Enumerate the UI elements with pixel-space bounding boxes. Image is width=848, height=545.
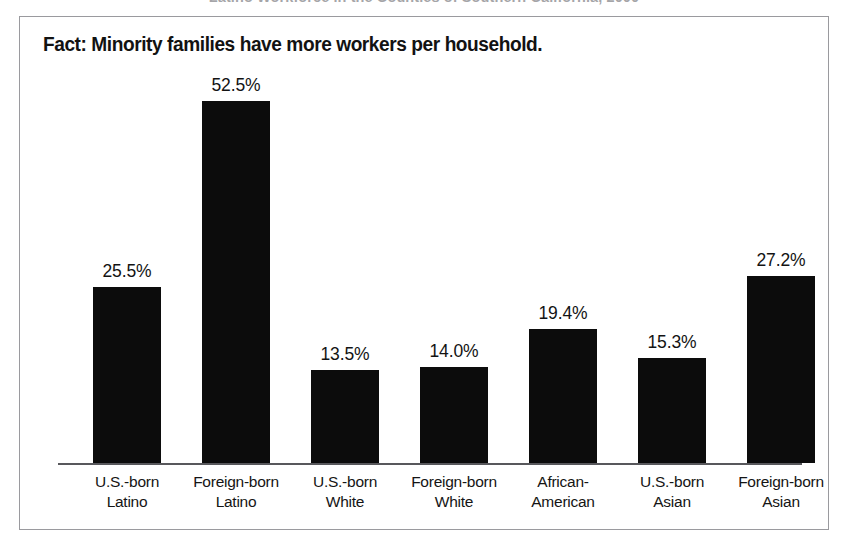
category-label-line2: Latino xyxy=(173,492,299,512)
bar-group: 15.3% xyxy=(638,318,706,463)
bar-7 xyxy=(747,276,815,463)
category-label-2: Foreign-bornLatino xyxy=(173,472,299,512)
category-label-line1: African- xyxy=(537,473,588,490)
bar-4 xyxy=(420,367,488,464)
category-label-6: U.S.-bornAsian xyxy=(609,472,735,512)
category-label-line2: Asian xyxy=(718,492,844,512)
category-label-line2: White xyxy=(391,492,517,512)
category-label-5: African-American xyxy=(500,472,626,512)
bar-group: 25.5% xyxy=(93,247,161,463)
category-label-7: Foreign-bornAsian xyxy=(718,472,844,512)
cropped-page-caption: Latino Workforce in the Counties of Sout… xyxy=(0,0,848,13)
chart-plot-area: 25.5%52.5%13.5%14.0%19.4%15.3%27.2% U.S.… xyxy=(20,17,828,528)
bar-group: 19.4% xyxy=(529,289,597,463)
category-label-line1: U.S.-born xyxy=(95,473,159,490)
bar-6 xyxy=(638,358,706,463)
category-label-line1: U.S.-born xyxy=(313,473,377,490)
bar-group: 52.5% xyxy=(202,61,270,463)
bar-group: 27.2% xyxy=(747,236,815,463)
category-label-4: Foreign-bornWhite xyxy=(391,472,517,512)
category-label-line2: American xyxy=(500,492,626,512)
bar-value-label: 25.5% xyxy=(71,261,183,282)
bar-value-label: 15.3% xyxy=(616,332,728,353)
category-label-line2: White xyxy=(282,492,408,512)
category-label-line1: Foreign-born xyxy=(738,473,824,490)
category-label-line1: U.S.-born xyxy=(640,473,704,490)
bar-5 xyxy=(529,329,597,463)
category-label-line2: Asian xyxy=(609,492,735,512)
bar-3 xyxy=(311,370,379,463)
bar-value-label: 14.0% xyxy=(398,341,510,362)
category-label-1: U.S.-bornLatino xyxy=(64,472,190,512)
bar-value-label: 52.5% xyxy=(180,75,292,96)
bar-group: 13.5% xyxy=(311,330,379,463)
bar-group: 14.0% xyxy=(420,327,488,464)
bar-1 xyxy=(93,287,161,463)
category-label-line2: Latino xyxy=(64,492,190,512)
bar-value-label: 27.2% xyxy=(725,250,837,271)
bar-value-label: 19.4% xyxy=(507,303,619,324)
category-label-3: U.S.-bornWhite xyxy=(282,472,408,512)
cropped-caption-text: Latino Workforce in the Counties of Sout… xyxy=(0,0,848,5)
x-axis-line xyxy=(58,463,802,465)
bar-2 xyxy=(202,101,270,463)
category-label-line1: Foreign-born xyxy=(411,473,497,490)
chart-figure-frame: Fact: Minority families have more worker… xyxy=(19,16,829,530)
category-label-line1: Foreign-born xyxy=(193,473,279,490)
bar-value-label: 13.5% xyxy=(289,344,401,365)
